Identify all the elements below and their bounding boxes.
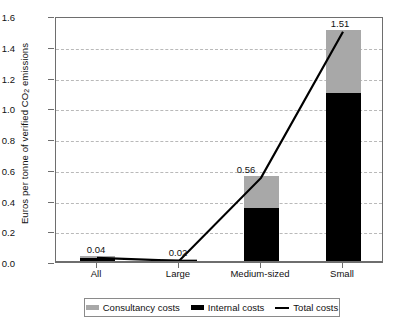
legend-item-internal: Internal costs <box>191 302 265 313</box>
data-label: 1.51 <box>331 18 350 29</box>
data-label: 0.02 <box>169 247 188 258</box>
legend-item-consultancy: Consultancy costs <box>86 302 180 313</box>
y-axis-tick-label: 1.2 <box>0 73 15 84</box>
y-axis-tick-mark <box>48 109 54 110</box>
total-costs-line <box>56 18 384 264</box>
x-axis-tick-label: Large <box>166 268 190 279</box>
y-axis-tick-mark <box>48 48 54 49</box>
y-axis-tick-label: 0.6 <box>0 165 15 176</box>
internal-swatch-icon <box>191 305 204 310</box>
y-axis-tick-mark <box>48 17 54 18</box>
y-axis-tick-label: 1.0 <box>0 104 15 115</box>
x-axis-tick-label: Small <box>330 268 354 279</box>
y-axis-tick-mark <box>48 232 54 233</box>
y-axis-tick-label: 0.8 <box>0 135 15 146</box>
x-axis-tick-mark <box>342 263 343 268</box>
plot-area <box>55 17 383 263</box>
y-axis-tick-mark <box>48 79 54 80</box>
x-axis-tick-mark <box>178 263 179 268</box>
y-axis-tick-mark <box>48 171 54 172</box>
consultancy-swatch-icon <box>86 305 99 310</box>
total-line-swatch-icon <box>275 307 289 309</box>
legend-label-total: Total costs <box>293 302 338 313</box>
y-axis-tick-label: 0.2 <box>0 227 15 238</box>
y-axis-tick-mark <box>48 140 54 141</box>
data-label: 0.56 <box>237 164 256 175</box>
legend-item-total: Total costs <box>275 302 338 313</box>
x-axis-tick-mark <box>96 263 97 268</box>
x-axis-tick-label: Medium-sized <box>230 268 289 279</box>
stacked-bar-chart: Euros per tonne of verified CO2 emission… <box>0 0 400 327</box>
x-axis-tick-label: All <box>91 268 102 279</box>
y-axis-tick-mark <box>48 202 54 203</box>
x-axis-tick-mark <box>260 263 261 268</box>
legend-label-internal: Internal costs <box>208 302 265 313</box>
y-axis-tick-label: 0.4 <box>0 196 15 207</box>
chart-legend: Consultancy costs Internal costs Total c… <box>84 298 340 317</box>
y-axis-label-subscript: 2 <box>23 89 30 93</box>
y-axis-tick-label: 0.0 <box>0 258 15 269</box>
y-axis-label-pre: Euros per tonne of verified CO <box>19 93 30 224</box>
y-axis-tick-label: 1.6 <box>0 12 15 23</box>
y-axis-label-post: emissions <box>19 43 30 89</box>
x-axis-baseline <box>56 261 382 262</box>
data-label: 0.04 <box>87 244 106 255</box>
y-axis-label: Euros per tonne of verified CO2 emission… <box>19 14 30 254</box>
legend-label-consultancy: Consultancy costs <box>103 302 180 313</box>
y-axis-tick-label: 1.4 <box>0 42 15 53</box>
y-axis-tick-mark <box>48 263 54 264</box>
